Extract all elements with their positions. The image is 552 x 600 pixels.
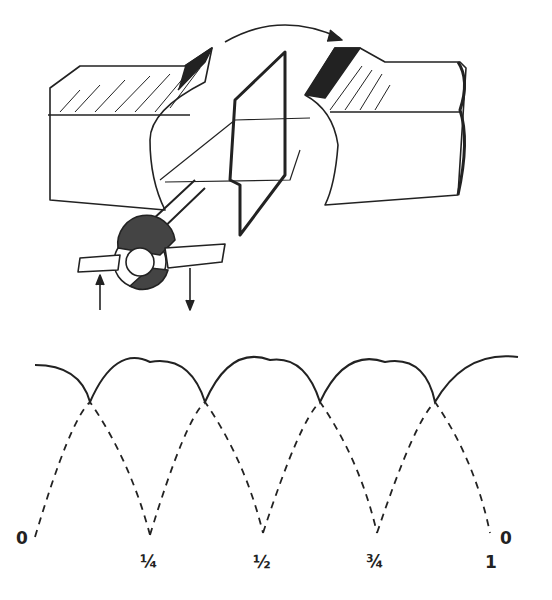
- x-label-half: ½: [253, 552, 271, 572]
- waveform-graph: [35, 356, 518, 537]
- x-label-quarter: ¼: [140, 552, 158, 572]
- generator-diagram: [0, 0, 552, 600]
- x-label-one: 1: [485, 552, 497, 572]
- rotating-armature-coil: [230, 52, 285, 235]
- x-label-end-zero: 0: [500, 528, 512, 548]
- rectified-output-curve: [35, 356, 518, 402]
- x-label-three-quarter: ¾: [366, 552, 384, 572]
- coil-emf-dashed-3: [263, 402, 377, 533]
- brush-right: [165, 244, 225, 268]
- brush-left: [78, 255, 120, 272]
- coil-emf-dashed-2: [150, 402, 263, 535]
- x-label-start: 0: [16, 528, 28, 548]
- coil-emf-dashed-4: [377, 402, 490, 533]
- rotation-arrow: [225, 25, 340, 42]
- coil-emf-dashed-1: [35, 402, 150, 537]
